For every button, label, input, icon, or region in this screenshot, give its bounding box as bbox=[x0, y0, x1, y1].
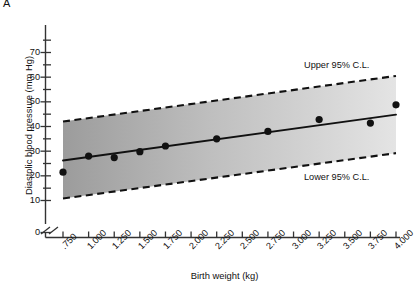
x-tick-label-2.500: 2.500 bbox=[238, 228, 261, 251]
x-axis-title: Birth weight (kg) bbox=[0, 270, 407, 281]
x-tick-label-3.000: 3.000 bbox=[290, 228, 313, 251]
x-tick-label-3.500: 3.500 bbox=[341, 228, 364, 251]
x-tick-label-1.750: 1.750 bbox=[161, 228, 184, 251]
x-tick-label-1.500: 1.500 bbox=[136, 228, 159, 251]
x-tick-label-3.750: 3.750 bbox=[366, 228, 389, 251]
x-tick-label-2.250: 2.250 bbox=[213, 228, 236, 251]
x-tick-label-3.250: 3.250 bbox=[315, 228, 338, 251]
x-tick-label-1.250: 1.250 bbox=[110, 228, 133, 251]
x-tick-label-2.000: 2.000 bbox=[187, 228, 210, 251]
x-tick-label-.750: .750 bbox=[59, 231, 79, 251]
annotation-upper-cl: Upper 95% C.L. bbox=[304, 60, 369, 71]
x-tick-label-4.000: 4.000 bbox=[392, 228, 415, 251]
annotation-lower-cl: Lower 95% C.L. bbox=[304, 172, 369, 183]
x-tick-label-2.750: 2.750 bbox=[264, 228, 287, 251]
x-tick-label-1.000: 1.000 bbox=[85, 228, 108, 251]
x-axis-title-text: Birth weight (kg) bbox=[149, 270, 259, 281]
